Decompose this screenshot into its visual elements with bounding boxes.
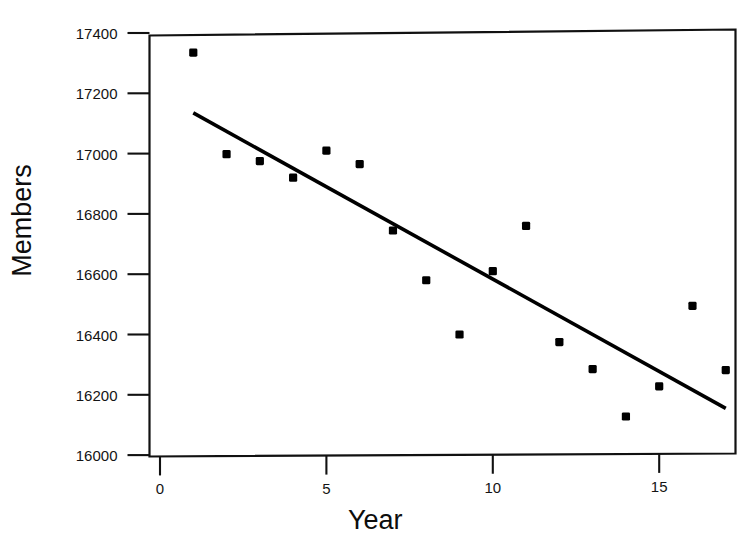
axes-frame	[150, 30, 736, 457]
y-tick-marks	[128, 33, 150, 455]
data-point	[589, 365, 597, 373]
data-point	[655, 382, 663, 390]
data-point	[189, 48, 197, 56]
data-point	[722, 366, 730, 374]
chart-figure: Members Year 160001620016400166001680017…	[0, 0, 756, 556]
data-point	[222, 150, 230, 158]
data-point	[555, 338, 563, 346]
data-point	[489, 267, 497, 275]
data-point	[356, 160, 364, 168]
data-point	[622, 412, 630, 420]
data-point	[455, 330, 463, 338]
plot-border	[150, 30, 736, 457]
data-point	[389, 226, 397, 234]
plot-area	[0, 0, 756, 556]
data-point	[522, 222, 530, 230]
data-point	[688, 302, 696, 310]
data-point	[422, 276, 430, 284]
data-point	[256, 157, 264, 165]
data-point	[289, 174, 297, 182]
data-point	[322, 146, 330, 154]
regression-line	[193, 113, 725, 408]
trend-line	[193, 113, 725, 408]
